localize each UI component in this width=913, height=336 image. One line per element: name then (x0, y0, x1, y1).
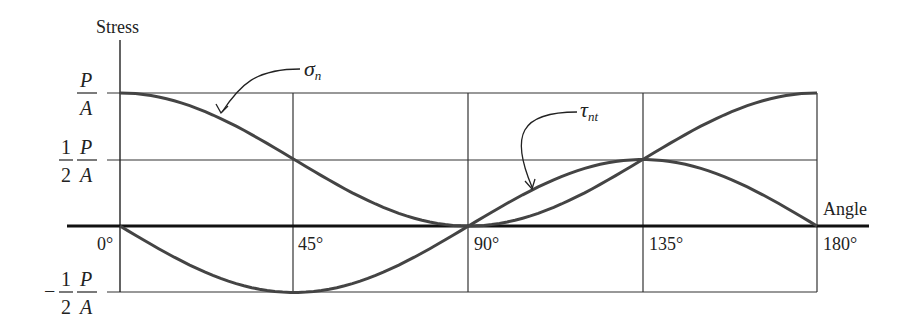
stress-angle-chart: σn τnt Stress Angle 0° 45° 90° 135° 180°… (0, 0, 913, 336)
svg-text:−: − (44, 280, 55, 302)
x-tick-180: 180° (823, 234, 857, 254)
y-tick-half-p-over-a: 1 2 P A (59, 136, 97, 186)
svg-text:1: 1 (61, 268, 71, 290)
svg-text:2: 2 (61, 296, 71, 318)
tau-nt-label: τnt (580, 97, 598, 124)
svg-text:A: A (78, 97, 93, 119)
x-tick-135: 135° (649, 234, 683, 254)
y-tick-neg-half-p-over-a: − 1 2 P A (44, 268, 97, 318)
x-tick-90: 90° (474, 234, 499, 254)
sigma-callout (216, 69, 300, 113)
sigma-n-label: σn (304, 56, 321, 83)
svg-text:A: A (78, 296, 93, 318)
svg-text:P: P (79, 69, 92, 91)
svg-text:A: A (78, 164, 93, 186)
svg-text:2: 2 (61, 164, 71, 186)
x-tick-0: 0° (97, 234, 113, 254)
svg-text:P: P (79, 136, 92, 158)
x-axis-title: Angle (823, 199, 867, 219)
x-tick-45: 45° (298, 234, 323, 254)
svg-text:1: 1 (61, 136, 71, 158)
y-axis-title: Stress (96, 17, 139, 37)
y-tick-p-over-a: P A (77, 69, 97, 119)
tau-callout (521, 112, 577, 189)
svg-text:P: P (79, 268, 92, 290)
